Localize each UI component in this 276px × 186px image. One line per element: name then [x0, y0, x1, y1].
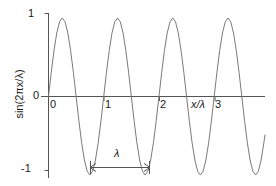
plot-canvas	[0, 0, 276, 186]
y-tick-label-minus-1: -1	[21, 163, 31, 174]
sine-wave-figure: sin(2πx/λ) 1 0 -1 0 1 2 3 x/λ λ	[0, 0, 276, 186]
y-tick-label-0: 0	[33, 90, 39, 101]
y-tick-label-1: 1	[28, 8, 34, 19]
y-axis-ticks	[45, 14, 49, 171]
x-tick-label-0: 0	[50, 99, 56, 110]
wavelength-double-arrow	[90, 161, 150, 174]
y-axis-label: sin(2πx/λ)	[13, 39, 25, 149]
x-axis-label: x/λ	[191, 99, 205, 110]
wavelength-label: λ	[114, 148, 119, 159]
x-tick-label-2: 2	[160, 99, 166, 110]
x-tick-label-1: 1	[105, 99, 111, 110]
x-tick-label-3: 3	[215, 99, 221, 110]
